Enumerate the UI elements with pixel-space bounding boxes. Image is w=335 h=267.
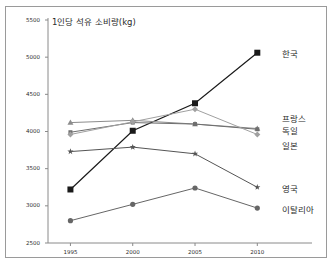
chart-title: 1인당 석유 소비량(kg) (52, 15, 136, 27)
y-axis-tick-label: 4000 (18, 128, 40, 134)
series-5 (68, 185, 260, 223)
series-label-0: 한국 (282, 47, 298, 59)
y-axis-tick-label: 3000 (18, 202, 40, 208)
chart-series-layer (67, 50, 260, 224)
y-axis-tick-label: 2500 (18, 240, 40, 246)
x-axis-tick-label: 2010 (242, 249, 272, 255)
series-label-4: 영국 (282, 182, 298, 194)
series-4 (67, 144, 260, 190)
y-axis-tick-label: 5000 (18, 54, 40, 60)
x-axis-tick-label: 1995 (55, 249, 85, 255)
x-axis-tick-label: 2000 (118, 249, 148, 255)
y-axis-tick-label: 3500 (18, 165, 40, 171)
y-axis-tick-label: 4500 (18, 91, 40, 97)
series-0 (67, 50, 260, 193)
series-label-3: 일본 (282, 139, 298, 151)
series-label-2: 독일 (282, 124, 298, 136)
series-label-1: 프랑스 (282, 112, 306, 124)
y-axis-tick-label: 5500 (18, 17, 40, 23)
x-axis-tick-label: 2005 (180, 249, 210, 255)
series-label-5: 이탈리아 (282, 203, 314, 215)
